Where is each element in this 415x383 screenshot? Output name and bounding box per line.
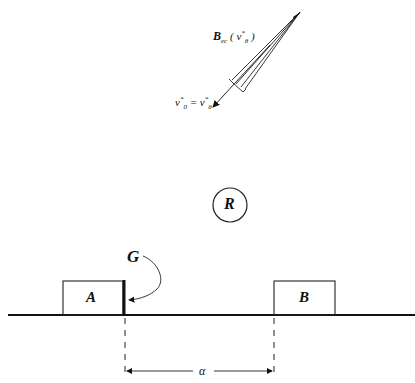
beam-cone <box>229 12 301 92</box>
velocity-equation: v*0 = v*θ <box>175 95 212 111</box>
velocity-arrow <box>213 45 270 107</box>
beam-label-sub: ec <box>221 37 227 45</box>
diagram-svg <box>0 0 415 383</box>
velocity-rhs-sub: θ <box>208 103 211 111</box>
velocity-lhs-sub: 0 <box>183 103 187 111</box>
beam-label: Bec ( v*θ ) <box>213 29 255 45</box>
velocity-rhs-sup: * <box>205 95 209 103</box>
diagram-canvas: Bec ( v*θ ) v*0 = v*θ R A B G α <box>0 0 415 383</box>
beam-label-main: B <box>213 29 221 43</box>
box-a-label: A <box>86 289 96 306</box>
gate-label: G <box>127 247 139 267</box>
box-b-label: B <box>299 289 309 306</box>
velocity-lhs-sup: * <box>180 95 184 103</box>
reactor-label: R <box>224 195 235 213</box>
beam-label-close: ) <box>248 30 254 42</box>
velocity-equals: = <box>190 96 197 108</box>
separation-label: α <box>199 364 205 379</box>
